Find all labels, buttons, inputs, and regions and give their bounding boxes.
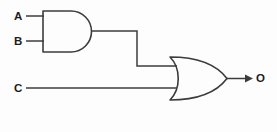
input-label-a: A bbox=[14, 10, 22, 22]
logic-circuit-diagram: A B C O bbox=[0, 0, 277, 132]
and-gate-body bbox=[43, 11, 91, 52]
input-label-b: B bbox=[14, 35, 22, 47]
wire-and-to-or bbox=[92, 31, 178, 66]
output-label-o: O bbox=[256, 72, 265, 84]
circuit-canvas: A B C O bbox=[0, 0, 277, 132]
input-label-c: C bbox=[14, 82, 22, 94]
or-gate-body bbox=[170, 57, 227, 100]
arrowhead-icon bbox=[245, 75, 253, 83]
